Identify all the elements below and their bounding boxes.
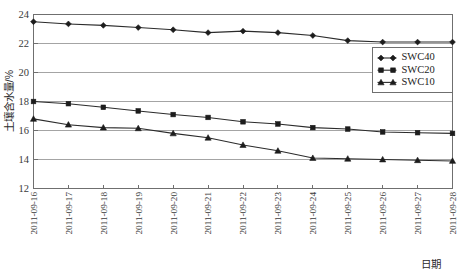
y-tick-label: 20 xyxy=(19,67,30,78)
x-tick-label: 2011-09-26 xyxy=(378,192,388,235)
x-axis-ticks xyxy=(34,185,453,189)
square-marker xyxy=(136,109,141,114)
diamond-marker xyxy=(275,30,281,36)
legend-label: SWC10 xyxy=(402,76,435,87)
square-marker xyxy=(380,130,385,135)
diamond-marker xyxy=(310,33,316,39)
y-tick-label: 14 xyxy=(19,154,30,165)
square-marker xyxy=(101,105,106,110)
square-marker xyxy=(415,130,420,135)
diamond-marker xyxy=(170,27,176,33)
x-axis-title: 日期 xyxy=(421,258,441,270)
square-marker xyxy=(311,125,316,130)
chart-legend[interactable]: SWC40SWC20SWC10 xyxy=(373,48,453,93)
x-tick-label: 2011-09-16 xyxy=(29,192,39,235)
x-axis-tick-labels: 2011-09-162011-09-172011-09-182011-09-19… xyxy=(29,192,458,235)
diamond-marker xyxy=(415,39,421,45)
x-tick-label: 2011-09-27 xyxy=(413,192,423,235)
x-tick-label: 2011-09-22 xyxy=(238,192,248,235)
diamond-marker xyxy=(100,22,106,28)
square-marker xyxy=(391,68,396,73)
square-marker xyxy=(31,99,36,104)
square-marker xyxy=(241,120,246,125)
line-chart: 12141618202224 2011-09-162011-09-172011-… xyxy=(0,0,459,277)
square-marker xyxy=(276,122,281,127)
y-tick-label: 18 xyxy=(19,96,30,107)
x-tick-label: 2011-09-19 xyxy=(134,192,144,235)
y-axis-tick-labels: 12141618202224 xyxy=(19,9,30,194)
x-tick-label: 2011-09-28 xyxy=(448,192,458,235)
square-marker xyxy=(450,131,455,136)
y-axis-title: 土壤含水量/% xyxy=(3,70,15,132)
x-tick-label: 2011-09-21 xyxy=(203,192,213,235)
x-tick-label: 2011-09-24 xyxy=(308,192,318,235)
x-tick-label: 2011-09-20 xyxy=(169,192,179,235)
diamond-marker xyxy=(450,39,456,45)
series-line xyxy=(34,119,453,161)
legend-label: SWC40 xyxy=(402,51,435,62)
square-marker xyxy=(206,115,211,120)
square-marker xyxy=(345,127,350,132)
diamond-marker xyxy=(240,28,246,34)
series-SWC40 xyxy=(31,19,456,45)
x-tick-label: 2011-09-18 xyxy=(99,192,109,235)
diamond-marker xyxy=(345,38,351,44)
chart-container: 12141618202224 2011-09-162011-09-172011-… xyxy=(0,0,459,277)
triangle-marker xyxy=(30,116,36,122)
diamond-marker xyxy=(66,21,72,27)
square-marker xyxy=(66,101,71,106)
diamond-marker xyxy=(31,19,37,25)
square-marker xyxy=(379,68,384,73)
diamond-marker xyxy=(135,25,141,31)
y-tick-label: 16 xyxy=(19,125,30,136)
square-marker xyxy=(171,112,176,117)
diamond-marker xyxy=(380,39,386,45)
y-tick-label: 12 xyxy=(19,183,30,194)
y-tick-label: 22 xyxy=(19,38,30,49)
legend-label: SWC20 xyxy=(402,64,435,75)
x-tick-label: 2011-09-17 xyxy=(64,192,74,235)
series-line xyxy=(34,102,453,134)
y-tick-label: 24 xyxy=(19,9,30,20)
x-tick-label: 2011-09-25 xyxy=(343,192,353,235)
diamond-marker xyxy=(205,30,211,36)
x-tick-label: 2011-09-23 xyxy=(273,192,283,235)
